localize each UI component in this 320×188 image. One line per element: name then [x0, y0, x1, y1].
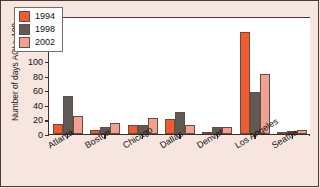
y-tick-label: 80	[33, 72, 43, 82]
bar-atlanta-2002	[73, 116, 83, 134]
y-tick-label: 20	[33, 115, 43, 125]
y-tick-label: 60	[33, 86, 43, 96]
legend-item-1994: 1994	[19, 11, 55, 22]
y-tick-label: 100	[28, 57, 43, 67]
legend-swatch-icon	[19, 11, 30, 22]
legend-label: 1994	[35, 12, 55, 21]
bar-los-angeles-1994	[240, 32, 250, 134]
legend-swatch-icon	[19, 37, 30, 48]
chart-frame: Number of days AQI > 100 020406080100120…	[0, 0, 319, 187]
bar-boston-2002	[110, 123, 120, 134]
bar-seattle-2002	[297, 130, 307, 134]
y-tick-label: 40	[33, 101, 43, 111]
legend-swatch-icon	[19, 24, 30, 35]
bar-series-container	[49, 18, 310, 134]
bar-group	[240, 32, 270, 134]
y-tick-mark	[45, 135, 49, 136]
chart-legend: 199419982002	[14, 7, 63, 52]
bar-dallas-2002	[185, 125, 195, 135]
y-tick-label: 0	[38, 130, 43, 140]
legend-item-1998: 1998	[19, 24, 55, 35]
legend-label: 1998	[35, 25, 55, 34]
legend-item-2002: 2002	[19, 37, 55, 48]
legend-label: 2002	[35, 38, 55, 47]
